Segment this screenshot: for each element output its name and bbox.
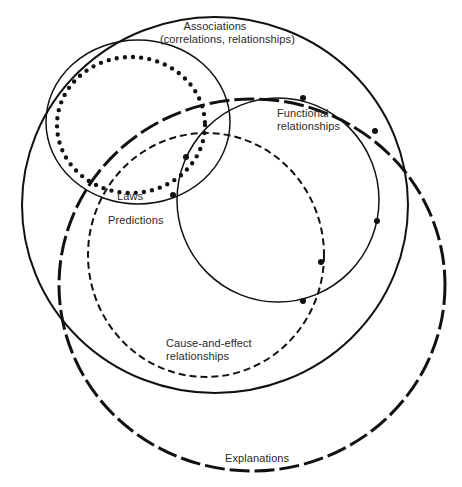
functional-dot-marker [372, 128, 378, 134]
associations-subtitle: (correlations, relationships) [160, 33, 270, 46]
functional-relationships-label: Functional relationships [277, 107, 340, 133]
functional-dot-marker [170, 192, 176, 198]
venn-diagram [0, 0, 462, 487]
explanations-outline [59, 99, 445, 471]
functional-dot-marker [318, 259, 324, 265]
functional-subtitle: relationships [277, 120, 340, 133]
set-outlines [22, 17, 445, 471]
associations-label: Associations (correlations, relationship… [160, 20, 270, 46]
functional-dot-marker [374, 218, 380, 224]
cause-and-effect-label: Cause-and-effect relationships [166, 337, 252, 363]
cause-effect-subtitle: relationships [166, 350, 252, 363]
predictions-label: Predictions [108, 214, 164, 227]
laws-label: Laws [117, 190, 143, 203]
laws-outline [46, 40, 230, 204]
predictions-outline [57, 57, 205, 193]
functional-dot-marker [183, 154, 189, 160]
explanations-label: Explanations [225, 452, 289, 465]
associations-title: Associations [160, 20, 270, 33]
functional-dot-marker [300, 298, 306, 304]
functional-title: Functional [277, 107, 340, 120]
functional-dot-marker [300, 95, 306, 101]
cause-effect-title: Cause-and-effect [166, 337, 252, 350]
